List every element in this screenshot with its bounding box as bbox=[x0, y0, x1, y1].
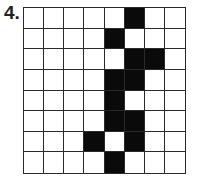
grid-cell-filled bbox=[145, 49, 165, 70]
grid-cell-empty bbox=[105, 132, 125, 153]
grid-cell-filled bbox=[125, 111, 145, 132]
grid-cell-empty bbox=[145, 152, 165, 173]
grid-cell-empty bbox=[64, 91, 84, 112]
grid-cell-empty bbox=[44, 70, 64, 91]
grid-cell-empty bbox=[44, 29, 64, 50]
pixel-grid bbox=[23, 7, 186, 174]
grid-cell-empty bbox=[84, 49, 104, 70]
grid-cell-empty bbox=[44, 8, 64, 29]
grid-cell-empty bbox=[24, 8, 44, 29]
grid-cell-empty bbox=[64, 152, 84, 173]
grid-cell-empty bbox=[84, 29, 104, 50]
grid-cell-empty bbox=[105, 8, 125, 29]
grid-cell-empty bbox=[145, 8, 165, 29]
grid-cell-empty bbox=[145, 70, 165, 91]
grid-cell-filled bbox=[105, 91, 125, 112]
grid-cell-empty bbox=[165, 29, 185, 50]
grid-cell-empty bbox=[24, 91, 44, 112]
grid-cell-empty bbox=[145, 111, 165, 132]
grid-cell-empty bbox=[125, 29, 145, 50]
grid-cell-empty bbox=[165, 70, 185, 91]
grid-cell-empty bbox=[84, 91, 104, 112]
grid-cell-filled bbox=[105, 152, 125, 173]
grid-cell-filled bbox=[105, 70, 125, 91]
grid-cell-filled bbox=[125, 49, 145, 70]
grid-cell-empty bbox=[84, 8, 104, 29]
grid-cell-empty bbox=[44, 91, 64, 112]
grid-cell-empty bbox=[24, 70, 44, 91]
grid-cell-filled bbox=[125, 70, 145, 91]
grid-cell-empty bbox=[24, 132, 44, 153]
grid-cell-empty bbox=[165, 111, 185, 132]
grid-cell-empty bbox=[165, 91, 185, 112]
grid-cell-empty bbox=[64, 8, 84, 29]
grid-cell-filled bbox=[125, 132, 145, 153]
puzzle-number-label: 4. bbox=[4, 2, 20, 24]
grid-cell-empty bbox=[84, 111, 104, 132]
grid-cell-empty bbox=[84, 152, 104, 173]
grid-cell-empty bbox=[44, 132, 64, 153]
grid-cell-empty bbox=[145, 91, 165, 112]
grid-cell-empty bbox=[125, 152, 145, 173]
grid-cell-empty bbox=[84, 70, 104, 91]
grid-cell-empty bbox=[145, 29, 165, 50]
grid-cell-empty bbox=[24, 49, 44, 70]
grid-cell-empty bbox=[44, 152, 64, 173]
grid-cell-empty bbox=[64, 70, 84, 91]
grid-cell-empty bbox=[105, 49, 125, 70]
grid-cell-empty bbox=[125, 91, 145, 112]
grid-cell-filled bbox=[125, 8, 145, 29]
grid-cell-empty bbox=[165, 152, 185, 173]
grid-cell-filled bbox=[105, 29, 125, 50]
grid-cell-empty bbox=[64, 29, 84, 50]
grid-cell-empty bbox=[145, 132, 165, 153]
grid-cell-empty bbox=[165, 8, 185, 29]
grid-cell-empty bbox=[24, 152, 44, 173]
grid-cell-empty bbox=[64, 49, 84, 70]
grid-cell-empty bbox=[24, 29, 44, 50]
grid-cell-empty bbox=[64, 111, 84, 132]
grid-cell-empty bbox=[24, 111, 44, 132]
grid-cell-empty bbox=[165, 49, 185, 70]
grid-cell-empty bbox=[44, 49, 64, 70]
grid-cell-filled bbox=[84, 132, 104, 153]
grid-cell-filled bbox=[105, 111, 125, 132]
grid-cell-empty bbox=[64, 132, 84, 153]
grid-cell-empty bbox=[165, 132, 185, 153]
grid-cell-empty bbox=[44, 111, 64, 132]
